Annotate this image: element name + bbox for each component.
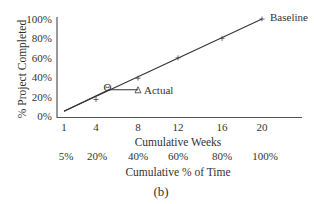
x-axis-label: Cumulative Weeks [135,136,222,148]
chart: 0%20%40%60%80%100% 148121620 5%20%40%60%… [0,0,314,204]
chart-svg: 0%20%40%60%80%100% 148121620 5%20%40%60%… [0,0,314,204]
y-tick-label: 20% [32,91,52,103]
y-tick-label: 40% [32,71,52,83]
y-tick-label: 100% [26,13,52,25]
x-tick-label: 1 [61,121,67,133]
caption: (b) [153,184,168,199]
actual-label: Actual [144,84,173,96]
y-axis-label: % Project Completed [16,20,29,119]
x-tick-label: 16 [217,121,229,133]
baseline-marker [94,97,99,102]
x2-tick-labels: 5%20%40%60%80%100% [59,150,278,162]
y-tick-label: 60% [32,52,52,64]
axes [57,17,302,118]
y-tick-label: 0% [37,110,52,122]
y-tick-labels: 0%20%40%60%80%100% [26,13,52,122]
x2-tick-label: 100% [252,150,278,162]
actual-line [64,90,138,111]
y-tick-label: 80% [32,32,52,44]
x2-tick-label: 40% [128,150,148,162]
theta-marker: Θ [104,81,112,93]
x2-axis-label: Cumulative % of Time [125,166,230,178]
baseline-label: Baseline [270,11,308,23]
baseline-marker [260,17,265,22]
x2-tick-label: 80% [212,150,232,162]
x2-tick-label: 60% [168,150,188,162]
baseline-marker [176,55,181,60]
x-tick-label: 20 [257,121,269,133]
x-tick-label: 8 [135,121,141,133]
x-tick-label: 12 [173,121,184,133]
x-tick-label: 4 [93,121,99,133]
x-tick-labels: 148121620 [61,121,268,133]
plot-area: BaselineΘActual [64,11,308,111]
x2-tick-label: 5% [59,150,74,162]
x2-tick-label: 20% [87,150,107,162]
